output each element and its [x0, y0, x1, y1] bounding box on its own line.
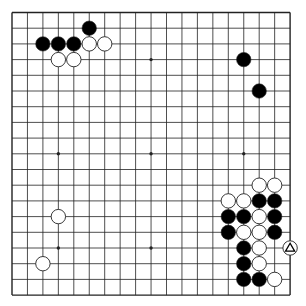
black-stone[interactable] — [267, 225, 281, 239]
stone-disc — [252, 194, 266, 208]
black-stone[interactable] — [252, 194, 266, 208]
stone-disc — [98, 37, 112, 51]
stone-disc — [237, 225, 251, 239]
white-stone[interactable] — [267, 272, 281, 286]
go-board[interactable] — [0, 0, 306, 306]
stone-disc — [237, 241, 251, 255]
star-point — [149, 246, 152, 249]
stone-disc — [267, 178, 281, 192]
white-stone[interactable] — [98, 37, 112, 51]
stone-disc — [237, 194, 251, 208]
star-point — [149, 152, 152, 155]
white-stone[interactable] — [267, 178, 281, 192]
black-stone[interactable] — [67, 37, 81, 51]
black-stone[interactable] — [237, 209, 251, 223]
stone-disc — [252, 225, 266, 239]
white-stone[interactable] — [252, 257, 266, 271]
black-stone[interactable] — [221, 225, 235, 239]
white-stone[interactable] — [237, 194, 251, 208]
stone-disc — [237, 52, 251, 66]
black-stone[interactable] — [267, 209, 281, 223]
star-point — [149, 58, 152, 61]
stone-disc — [252, 209, 266, 223]
stone-disc — [252, 272, 266, 286]
black-stone[interactable] — [252, 272, 266, 286]
stone-disc — [51, 209, 65, 223]
white-stone[interactable] — [252, 209, 266, 223]
stone-disc — [267, 272, 281, 286]
white-stone[interactable] — [51, 52, 65, 66]
black-stone[interactable] — [36, 37, 50, 51]
stone-disc — [237, 209, 251, 223]
stone-disc — [267, 209, 281, 223]
stone-disc — [67, 37, 81, 51]
stone-disc — [221, 194, 235, 208]
stone-disc — [67, 52, 81, 66]
stone-disc — [82, 37, 96, 51]
black-stone[interactable] — [51, 37, 65, 51]
black-stone[interactable] — [221, 209, 235, 223]
black-stone[interactable] — [267, 194, 281, 208]
star-point — [242, 152, 245, 155]
white-stone[interactable] — [82, 37, 96, 51]
stone-disc — [252, 241, 266, 255]
white-stone[interactable] — [283, 241, 297, 255]
stone-disc — [82, 21, 96, 35]
stone-disc — [252, 178, 266, 192]
stone-disc — [221, 209, 235, 223]
stone-disc — [51, 52, 65, 66]
black-stone[interactable] — [82, 21, 96, 35]
black-stone[interactable] — [237, 52, 251, 66]
stone-disc — [252, 84, 266, 98]
white-stone[interactable] — [252, 241, 266, 255]
white-stone[interactable] — [67, 52, 81, 66]
star-point — [57, 246, 60, 249]
black-stone[interactable] — [237, 241, 251, 255]
black-stone[interactable] — [237, 272, 251, 286]
white-stone[interactable] — [252, 178, 266, 192]
white-stone[interactable] — [237, 225, 251, 239]
stone-disc — [221, 225, 235, 239]
white-stone[interactable] — [252, 225, 266, 239]
stone-disc — [267, 194, 281, 208]
white-stone[interactable] — [36, 257, 50, 271]
black-stone[interactable] — [237, 257, 251, 271]
black-stone[interactable] — [252, 84, 266, 98]
stone-disc — [36, 257, 50, 271]
stone-disc — [237, 272, 251, 286]
white-stone[interactable] — [221, 194, 235, 208]
star-point — [57, 152, 60, 155]
stone-disc — [237, 257, 251, 271]
white-stone[interactable] — [51, 209, 65, 223]
stone-disc — [267, 225, 281, 239]
stone-disc — [252, 257, 266, 271]
stone-disc — [36, 37, 50, 51]
stone-disc — [51, 37, 65, 51]
